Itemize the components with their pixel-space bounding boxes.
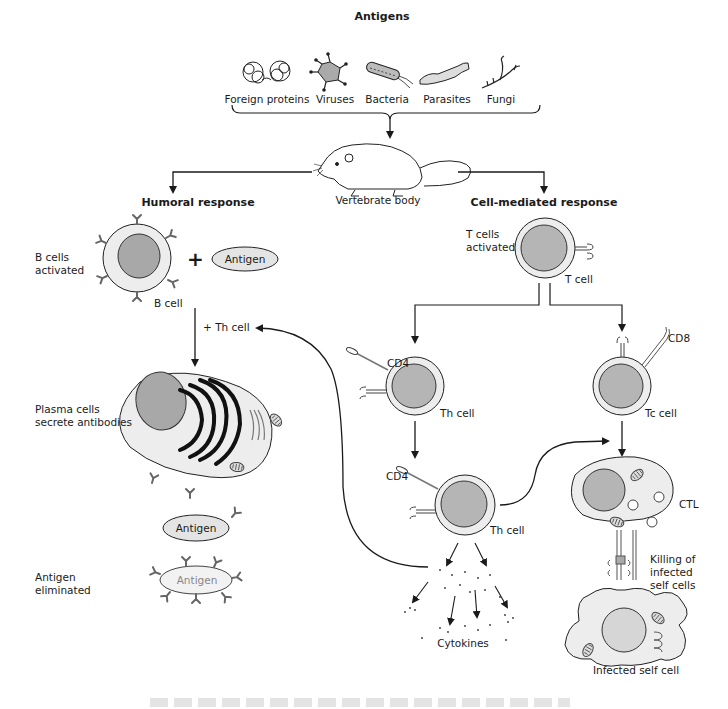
- t-cell: [515, 218, 593, 278]
- virus-icon: [309, 52, 348, 92]
- diagram-title: Antigens: [354, 10, 409, 23]
- immune-synapse: [608, 530, 636, 580]
- t-cells-activated-label: T cells activated: [466, 228, 515, 254]
- b-cell-label: B cell: [154, 297, 183, 310]
- antigen-label-3: Antigen: [177, 574, 218, 587]
- antigen-label-viruses: Viruses: [316, 93, 354, 106]
- antigen-label-fungi: Fungi: [487, 93, 515, 106]
- ctl-label: CTL: [679, 498, 699, 511]
- plasma-cells-label: Plasma cells secrete antibodies: [35, 403, 132, 429]
- parasite-icon: [420, 63, 469, 85]
- plasma-cell: [120, 368, 284, 478]
- protein-icon: [243, 61, 290, 83]
- humoral-heading: Humoral response: [141, 196, 254, 209]
- t-cell-label: T cell: [565, 273, 593, 286]
- infected-cell: [565, 588, 687, 666]
- fungi-icon: [482, 56, 520, 88]
- rat-icon: [313, 144, 471, 196]
- th-cell-b: [396, 465, 495, 535]
- b-cell: [96, 215, 178, 301]
- cd4-label-a: CD4: [387, 357, 409, 370]
- cell-mediated-heading: Cell-mediated response: [471, 196, 618, 209]
- b-cells-activated-label: B cells activated: [35, 251, 84, 277]
- killing-label: Killing of infected self cells: [650, 553, 695, 592]
- ctl-cell: [571, 457, 673, 529]
- th-help-label: + Th cell: [203, 321, 250, 334]
- tc-cell-label: Tc cell: [645, 407, 677, 420]
- cd4-label-b: CD4: [386, 470, 408, 483]
- cd8-label: CD8: [668, 332, 690, 345]
- antigen-label-bacteria: Bacteria: [365, 93, 409, 106]
- immune-response-diagram: Antigens Foreign proteins Viruses Bacter…: [0, 0, 728, 709]
- cytokine-spray: [413, 543, 507, 624]
- bacteria-icon: [365, 61, 413, 88]
- host-label: Vertebrate body: [335, 194, 420, 207]
- antigen-eliminated-label: Antigen eliminated: [35, 571, 91, 597]
- antigen-label-2: Antigen: [176, 522, 217, 535]
- plus-sign: +: [187, 249, 204, 269]
- infected-cell-label: Infected self cell: [593, 664, 679, 677]
- antigen-label-1: Antigen: [225, 253, 266, 266]
- th-cell-label-a: Th cell: [440, 407, 474, 420]
- free-antibodies: [148, 473, 241, 519]
- figure-caption-cutoff: [150, 698, 570, 707]
- cytokines-label: Cytokines: [437, 637, 489, 650]
- th-cell-label-b: Th cell: [490, 524, 524, 537]
- antigen-label-proteins: Foreign proteins: [224, 93, 309, 106]
- antigen-label-parasites: Parasites: [423, 93, 470, 106]
- tc-cell: [593, 327, 670, 415]
